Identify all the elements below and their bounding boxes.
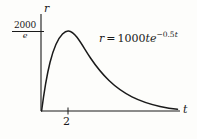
figure-container: r t 2 2000 e r=1000te−0.5t (0, 0, 197, 139)
equation-equals: = (104, 32, 117, 45)
y-axis-label: r (44, 3, 49, 14)
equation-coefficient: 1000 (117, 32, 145, 45)
curve-equation-annotation: r=1000te−0.5t (99, 33, 178, 44)
equation-exponent-coefficient: −0.5 (156, 30, 174, 39)
fraction-numerator: 2000 (12, 21, 38, 30)
equation-exponent-variable: t (175, 30, 178, 39)
fraction-denominator: e (12, 32, 38, 40)
x-axis-tick-label-2: 2 (63, 116, 70, 127)
x-axis-label: t (183, 104, 187, 115)
equation-exponent: −0.5t (156, 30, 177, 39)
y-axis-tick-label-fraction: 2000 e (12, 21, 38, 41)
